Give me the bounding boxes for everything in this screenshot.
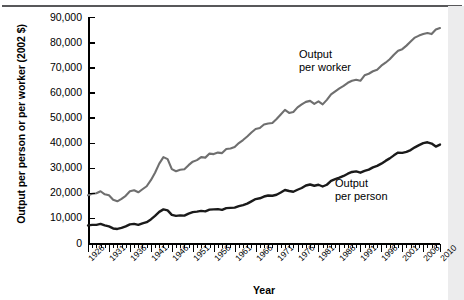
x-axis-major-tick: [298, 244, 299, 252]
x-axis-minor-tick: [281, 244, 282, 248]
x-axis-major-tick: [151, 244, 152, 252]
annotation-output-per-person: Outputper person: [335, 177, 388, 202]
x-axis-major-tick: [130, 244, 131, 252]
x-axis-major-tick: [235, 244, 236, 252]
line-output-per-worker: [88, 28, 440, 201]
x-axis-minor-tick: [356, 244, 357, 248]
y-axis-tick-mark: [88, 193, 95, 194]
annotation-output-per-worker: Outputper worker: [299, 48, 351, 73]
y-axis-tick-mark: [88, 218, 95, 219]
x-axis-minor-tick: [335, 244, 336, 248]
x-axis-major-tick: [402, 244, 403, 252]
annotation-person-line2: per person: [335, 190, 388, 202]
y-axis-tick-mark: [88, 42, 95, 43]
chart-figure: Output per person or per worker (2002 $)…: [0, 0, 464, 300]
y-axis-tick-mark: [88, 117, 95, 118]
annotation-worker-line1: Output: [299, 48, 332, 60]
x-axis-minor-tick: [302, 244, 303, 248]
y-axis-tick-mark: [88, 92, 95, 93]
x-axis-major-tick: [109, 244, 110, 252]
y-axis-tick-mark: [88, 17, 95, 18]
annotation-worker-line2: per worker: [299, 61, 351, 73]
x-axis-major-tick: [193, 244, 194, 252]
x-axis-major-tick: [214, 244, 215, 252]
series-layer: [0, 0, 464, 300]
x-axis-major-tick: [88, 244, 89, 252]
y-axis-tick-mark: [88, 143, 95, 144]
x-axis-major-tick: [172, 244, 173, 252]
x-axis-major-tick: [256, 244, 257, 252]
x-axis-major-tick: [423, 244, 424, 252]
y-axis-tick-mark: [88, 168, 95, 169]
annotation-person-line1: Output: [335, 177, 368, 189]
x-axis-title: Year: [88, 284, 440, 296]
x-axis-major-tick: [277, 244, 278, 252]
x-axis-minor-tick: [377, 244, 378, 248]
y-axis-tick-mark: [88, 67, 95, 68]
x-axis-major-tick: [381, 244, 382, 252]
